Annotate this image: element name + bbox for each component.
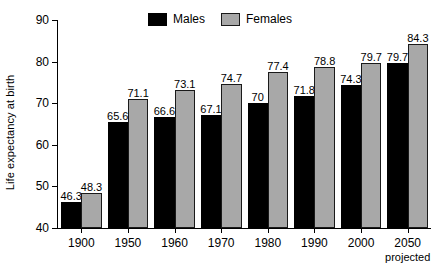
x-tick-label-1960: 1960 xyxy=(161,236,188,250)
x-tick-mark xyxy=(128,228,129,233)
bar-group: 65.671.1 xyxy=(108,20,149,228)
bar-females-2000[interactable]: 79.7 xyxy=(361,63,381,228)
bar-value-label: 70 xyxy=(252,91,264,103)
bar-value-label: 79.7 xyxy=(387,51,408,63)
y-tick-label: 40 xyxy=(36,221,49,235)
x-tick-mark xyxy=(81,228,82,233)
y-tick-label: 50 xyxy=(36,179,49,193)
bar-value-label: 73.1 xyxy=(174,78,195,90)
bar-group: 46.348.3 xyxy=(61,20,102,228)
bar-males-2050[interactable]: 79.7 xyxy=(387,63,407,228)
bar-group: 67.174.7 xyxy=(201,20,242,228)
y-tick-mark xyxy=(52,103,57,104)
bar-males-1950[interactable]: 65.6 xyxy=(108,122,128,228)
bar-value-label: 67.1 xyxy=(200,103,221,115)
bar-value-label: 79.7 xyxy=(361,51,382,63)
x-axis-line xyxy=(57,228,431,229)
x-tick-label-1970: 1970 xyxy=(208,236,235,250)
y-tick-mark xyxy=(52,228,57,229)
x-tick-mark xyxy=(314,228,315,233)
y-axis-line xyxy=(57,20,58,229)
bar-group: 7077.4 xyxy=(248,20,289,228)
y-tick-label: 60 xyxy=(36,138,49,152)
bar-males-1980[interactable]: 70 xyxy=(248,103,268,228)
y-tick-label: 80 xyxy=(36,55,49,69)
bar-value-label: 48.3 xyxy=(81,181,102,193)
bar-males-1900[interactable]: 46.3 xyxy=(61,202,81,228)
bar-females-2050[interactable]: 84.3 xyxy=(408,44,428,228)
bar-females-1960[interactable]: 73.1 xyxy=(175,90,195,228)
bar-group: 66.673.1 xyxy=(154,20,195,228)
x-tick-mark xyxy=(175,228,176,233)
plot-area: 405060708090 46.348.365.671.166.673.167.… xyxy=(57,20,430,228)
bar-males-2000[interactable]: 74.3 xyxy=(341,85,361,228)
bar-females-1970[interactable]: 74.7 xyxy=(221,84,241,228)
bar-females-1950[interactable]: 71.1 xyxy=(128,99,148,228)
x-tick-label-1980: 1980 xyxy=(254,236,281,250)
bar-value-label: 77.4 xyxy=(267,60,288,72)
y-tick-mark xyxy=(52,20,57,21)
bar-females-1900[interactable]: 48.3 xyxy=(81,193,101,228)
life-expectancy-bar-chart: Life expectancy at birth Males Females 4… xyxy=(0,0,440,265)
y-tick-label: 90 xyxy=(36,13,49,27)
x-tick-mark xyxy=(361,228,362,233)
bar-value-label: 65.6 xyxy=(107,110,128,122)
bar-group: 79.784.3 xyxy=(387,20,428,228)
bar-value-label: 71.1 xyxy=(127,87,148,99)
bar-value-label: 84.3 xyxy=(407,32,428,44)
y-tick-mark xyxy=(52,145,57,146)
bar-value-label: 78.8 xyxy=(314,55,335,67)
y-tick-label: 70 xyxy=(36,96,49,110)
x-tick-label-1900: 1900 xyxy=(68,236,95,250)
x-tick-label-1950: 1950 xyxy=(115,236,142,250)
x-tick-label-2000: 2000 xyxy=(348,236,375,250)
bar-value-label: 74.3 xyxy=(340,73,361,85)
x-tick-label-2050: 2050projected xyxy=(385,236,430,264)
x-tick-mark xyxy=(408,228,409,233)
bar-females-1990[interactable]: 78.8 xyxy=(314,67,334,228)
x-tick-mark xyxy=(268,228,269,233)
y-tick-mark xyxy=(52,62,57,63)
bar-value-label: 71.8 xyxy=(294,84,315,96)
x-tick-label-1990: 1990 xyxy=(301,236,328,250)
y-tick-mark xyxy=(52,186,57,187)
bar-group: 74.379.7 xyxy=(341,20,382,228)
bar-group: 71.878.8 xyxy=(294,20,335,228)
x-tick-sublabel: projected xyxy=(385,250,430,264)
bar-males-1990[interactable]: 71.8 xyxy=(294,96,314,228)
bar-males-1960[interactable]: 66.6 xyxy=(154,117,174,228)
bar-value-label: 46.3 xyxy=(60,190,81,202)
bar-males-1970[interactable]: 67.1 xyxy=(201,115,221,228)
bar-females-1980[interactable]: 77.4 xyxy=(268,72,288,228)
x-tick-mark xyxy=(221,228,222,233)
bar-value-label: 74.7 xyxy=(221,72,242,84)
y-axis-title: Life expectancy at birth xyxy=(0,0,20,265)
bar-value-label: 66.6 xyxy=(154,105,175,117)
